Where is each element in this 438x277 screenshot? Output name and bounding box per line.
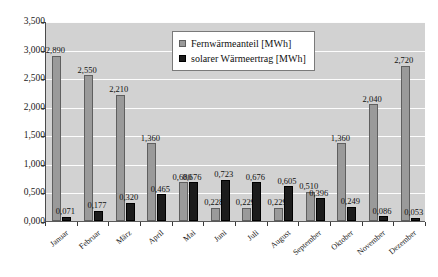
bar-group: 1,3600,465: [141, 22, 173, 221]
bar-s2[interactable]: [62, 217, 71, 221]
x-tick-mark: [393, 222, 394, 226]
series2-swatch: [179, 55, 186, 62]
x-tick-mark: [330, 222, 331, 226]
y-tick-label: 1,500: [5, 132, 45, 142]
x-tick-mark: [235, 222, 236, 226]
x-tick-mark: [45, 222, 46, 226]
x-tick-mark: [362, 222, 363, 226]
y-tick-label: 3,500: [5, 17, 45, 27]
x-tick-mark: [425, 222, 426, 226]
x-tick-mark: [267, 222, 268, 226]
bar-s2[interactable]: [411, 218, 420, 221]
legend-label-series2: solarer Wärmeertrag [MWh]: [191, 53, 306, 64]
bar-s2[interactable]: [126, 203, 135, 221]
bar-value-label: 0,723: [214, 170, 233, 179]
bar-value-label: 0,249: [341, 197, 360, 206]
bar-value-label: 0,605: [277, 177, 296, 186]
bar-s1[interactable]: [337, 143, 346, 221]
bar-value-label: 2,040: [363, 95, 382, 104]
bar-group: 2,2100,320: [109, 22, 141, 221]
bar-s2[interactable]: [221, 180, 230, 221]
bar-s1[interactable]: [116, 95, 125, 221]
bar-chart: 0,0000,5001,0001,5002,0002,5003,0003,500…: [0, 0, 438, 277]
bar-s1[interactable]: [274, 208, 283, 221]
x-axis: JanuarFebruarMärzAprilMaiJuniJuliAugustS…: [45, 222, 425, 277]
bar-value-label: 2,210: [109, 85, 128, 94]
bar-s2[interactable]: [157, 194, 166, 221]
bar-s1[interactable]: [401, 66, 410, 221]
bar-s2[interactable]: [94, 211, 103, 221]
bar-s2[interactable]: [347, 207, 356, 221]
legend-item-series1[interactable]: Fernwärmeanteil [MWh]: [179, 36, 306, 51]
bar-s1[interactable]: [242, 208, 251, 221]
bar-group: 2,7200,053: [394, 22, 426, 221]
x-tick-mark: [140, 222, 141, 226]
bar-value-label: 2,550: [78, 66, 97, 75]
bar-value-label: 0,086: [372, 207, 391, 216]
bar-value-label: 0,396: [309, 189, 328, 198]
series1-swatch: [179, 40, 186, 47]
chart-legend: Fernwärmeanteil [MWh] solarer Wärmeertra…: [172, 31, 315, 71]
bar-value-label: 0,676: [182, 173, 201, 182]
x-tick-mark: [298, 222, 299, 226]
bar-value-label: 0,053: [404, 208, 423, 217]
y-tick-label: 3,000: [5, 46, 45, 56]
bar-s2[interactable]: [252, 182, 261, 221]
bar-s1[interactable]: [147, 143, 156, 221]
bar-value-label: 1,360: [141, 134, 160, 143]
bar-s1[interactable]: [179, 182, 188, 221]
x-tick-mark: [172, 222, 173, 226]
bar-s1[interactable]: [84, 75, 93, 221]
legend-label-series1: Fernwärmeanteil [MWh]: [191, 38, 291, 49]
bar-group: 2,0400,086: [363, 22, 395, 221]
y-tick-label: 0,000: [5, 217, 45, 227]
bar-s1[interactable]: [369, 104, 378, 221]
bar-value-label: 2,720: [394, 56, 413, 65]
bar-value-label: 0,071: [56, 207, 75, 216]
y-tick-label: 0,500: [5, 189, 45, 199]
y-axis: 0,0000,5001,0001,5002,0002,5003,0003,500: [0, 22, 45, 222]
x-tick-mark: [203, 222, 204, 226]
bar-group: 2,5500,177: [78, 22, 110, 221]
bar-s2[interactable]: [284, 186, 293, 221]
y-tick-label: 1,000: [5, 160, 45, 170]
x-tick-mark: [77, 222, 78, 226]
bar-value-label: 2,890: [46, 46, 65, 55]
bar-s1[interactable]: [211, 208, 220, 221]
bar-group: 1,3600,249: [331, 22, 363, 221]
y-tick-label: 2,000: [5, 103, 45, 113]
bar-group: 2,8900,071: [46, 22, 78, 221]
legend-item-series2[interactable]: solarer Wärmeertrag [MWh]: [179, 51, 306, 66]
bar-value-label: 1,360: [331, 134, 350, 143]
bar-value-label: 0,177: [87, 201, 106, 210]
bar-s2[interactable]: [316, 198, 325, 221]
bar-value-label: 0,320: [119, 193, 138, 202]
x-tick-mark: [108, 222, 109, 226]
bar-s2[interactable]: [189, 182, 198, 221]
bar-value-label: 0,676: [246, 173, 265, 182]
bar-s2[interactable]: [379, 216, 388, 221]
y-tick-label: 2,500: [5, 74, 45, 84]
bar-s1[interactable]: [52, 56, 61, 221]
bar-value-label: 0,465: [151, 185, 170, 194]
